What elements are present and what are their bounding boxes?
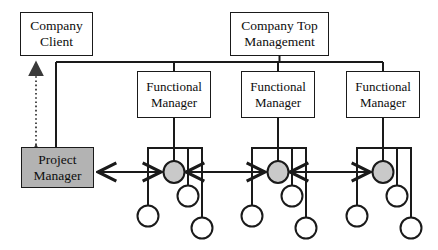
node-company-client[interactable]: Company Client xyxy=(20,12,93,56)
node-functional-manager-2-label: Functional Manager xyxy=(248,79,308,110)
staff-node-unassigned xyxy=(387,186,408,207)
staff-node-assigned xyxy=(268,161,289,183)
node-functional-manager-1[interactable]: Functional Manager xyxy=(137,71,211,118)
staff-node-unassigned xyxy=(282,186,303,207)
staff-node-unassigned xyxy=(192,218,213,239)
staff-node-unassigned xyxy=(178,186,199,207)
node-project-manager-label: Project Manager xyxy=(32,152,84,184)
staff-node-unassigned xyxy=(401,218,422,239)
staff-group-3 xyxy=(347,118,422,239)
staff-group-1 xyxy=(138,118,213,239)
node-functional-manager-1-label: Functional Manager xyxy=(144,79,204,110)
staff-group-2 xyxy=(242,118,317,239)
node-company-client-label: Company Client xyxy=(28,18,85,50)
connector-top-management-to-functional-managers xyxy=(174,62,383,71)
node-project-manager[interactable]: Project Manager xyxy=(21,147,94,188)
node-functional-manager-2[interactable]: Functional Manager xyxy=(241,71,315,118)
staff-node-assigned xyxy=(164,161,185,183)
node-functional-manager-3[interactable]: Functional Manager xyxy=(346,71,420,118)
node-company-top-management[interactable]: Company Top Management xyxy=(230,12,329,56)
staff-node-unassigned xyxy=(347,206,368,227)
matrix-organization-diagram: Company Client Company Top Management Fu… xyxy=(0,0,438,250)
staff-node-unassigned xyxy=(296,218,317,239)
node-company-top-management-label: Company Top Management xyxy=(239,18,319,50)
node-functional-manager-3-label: Functional Manager xyxy=(353,79,413,110)
staff-node-assigned xyxy=(373,161,394,183)
staff-node-unassigned xyxy=(242,206,263,227)
top-management-bus xyxy=(56,56,383,62)
staff-node-unassigned xyxy=(138,206,159,227)
